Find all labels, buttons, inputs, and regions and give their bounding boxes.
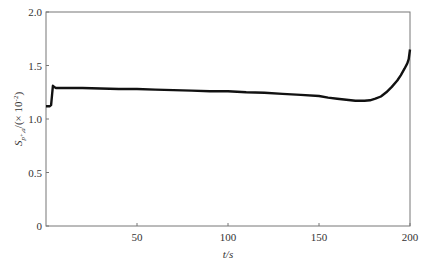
line-chart: 00.51.01.52.0 50100150200 t/s Sp⁺,a/(× 1… xyxy=(0,0,424,265)
x-tick-label: 100 xyxy=(220,231,237,243)
y-tick-label: 0.5 xyxy=(28,167,42,179)
plot-frame xyxy=(46,12,410,226)
y-label-unit: /(× 10 xyxy=(12,101,25,128)
x-tick-label: 150 xyxy=(311,231,328,243)
y-axis-label: Sp⁺,a/(× 10-2) xyxy=(12,92,27,146)
y-label-sub: p⁺,a xyxy=(19,128,27,142)
x-axis-label: t/s xyxy=(223,248,233,260)
y-tick-label: 2.0 xyxy=(28,6,42,18)
y-tick-label: 0 xyxy=(37,220,43,232)
data-line xyxy=(46,50,410,107)
y-tick-label: 1.5 xyxy=(28,60,42,72)
y-tick-label: 1.0 xyxy=(28,113,42,125)
plot-border xyxy=(46,12,410,226)
x-tick-label: 200 xyxy=(402,231,419,243)
x-tick-label: 50 xyxy=(132,231,144,243)
y-label-close: ) xyxy=(12,92,25,96)
